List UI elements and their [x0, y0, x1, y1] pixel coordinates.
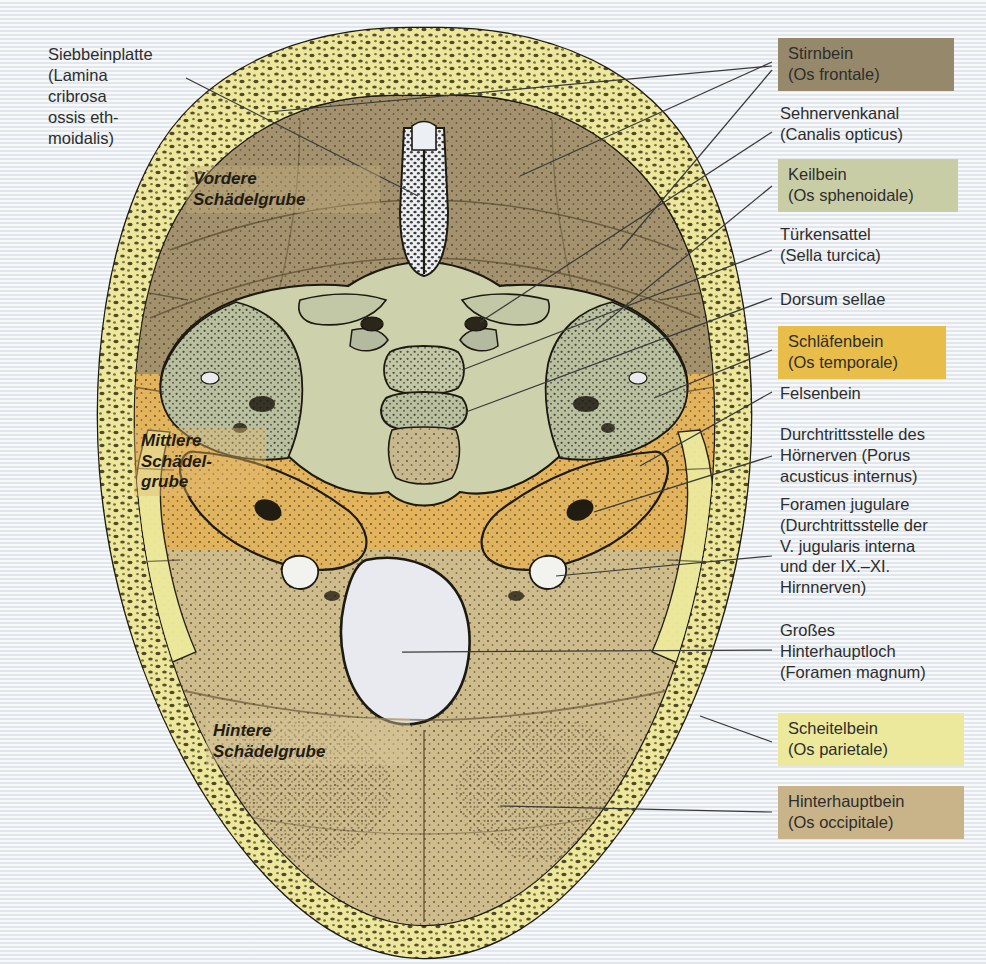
- sella-stipple: [384, 346, 464, 394]
- foramen-magnum: [341, 558, 470, 724]
- optic-canal-left: [361, 317, 383, 331]
- label-felsenbein: Felsenbein: [778, 383, 980, 404]
- label-foramen-jugulare: Foramen jugulare (Durchtrittsstelle der …: [778, 494, 986, 598]
- label-hinterhauptbein: Hinterhauptbein (Os occipitale): [778, 786, 964, 839]
- label-keilbein: Keilbein (Os sphenoidale): [778, 159, 958, 212]
- dorsum-sellae-stipple: [381, 392, 467, 432]
- hypoglossal-canal-left: [324, 591, 340, 601]
- foramen-rotundum-right: [629, 372, 647, 384]
- crista-galli-crest: [412, 122, 436, 151]
- label-dorsum-sellae: Dorsum sellae: [778, 289, 980, 310]
- foramen-ovale-right: [573, 396, 599, 412]
- leader-scheitelbein: [700, 716, 772, 742]
- label-siebbeinplatte: Siebbeinplatte (Lamina cribrosa ossis et…: [48, 44, 228, 150]
- hypoglossal-canal-right: [508, 591, 524, 601]
- label-sehnervenkanal: Sehnervenkanal (Canalis opticus): [778, 103, 980, 145]
- label-hintere-schaedelgrube: Hintere Schädelgrube: [206, 718, 410, 765]
- label-schlaefenbein: Schläfenbein (Os temporale): [778, 326, 946, 379]
- label-mittlere-schaedelgrube: Mittlere Schädel- grube: [134, 428, 266, 496]
- clivus-stipple: [389, 427, 460, 484]
- label-tuerkensattel: Türkensattel (Sella turcica): [778, 224, 980, 266]
- foramen-rotundum-left: [201, 372, 219, 384]
- foramen-spinosum-right: [601, 423, 615, 433]
- cribriform-plate-group: [400, 122, 448, 277]
- label-column: Stirnbein (Os frontale)Sehnervenkanal (C…: [778, 0, 986, 964]
- foramen-ovale-left: [249, 396, 275, 412]
- label-scheitelbein: Scheitelbein (Os parietale): [778, 713, 964, 766]
- foramen-jugulare-left: [282, 556, 318, 589]
- label-vordere-schaedelgrube: Vordere Schädelgrube: [186, 166, 380, 213]
- label-porus-acusticus-internus: Durchtrittsstelle des Hörnerven (Porus a…: [778, 424, 986, 486]
- label-foramen-magnum: Großes Hinterhauptloch (Foramen magnum): [778, 620, 986, 682]
- label-stirnbein: Stirnbein (Os frontale): [778, 38, 954, 91]
- foramen-jugulare-right: [530, 556, 566, 589]
